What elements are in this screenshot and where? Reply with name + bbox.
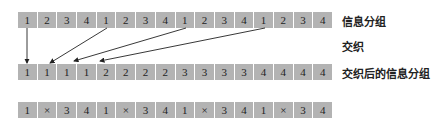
info-groups-label: 信息分组: [342, 13, 386, 29]
arrow-2: [50, 28, 107, 63]
arrow-3: [74, 28, 186, 61]
interleaved-groups-label: 交织后的信息分组: [342, 65, 430, 81]
arrow-4: [100, 28, 265, 61]
interleave-label: 交织: [342, 38, 364, 54]
